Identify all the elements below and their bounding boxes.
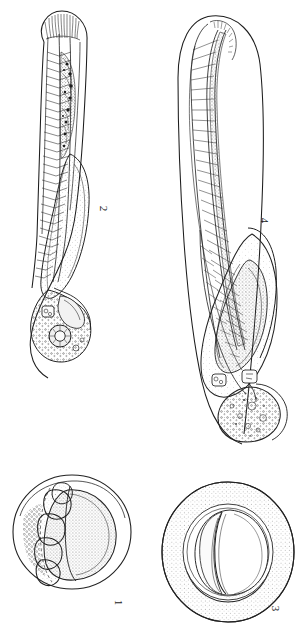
figure-1-drawing — [8, 468, 138, 598]
figure-1-label: 1 — [113, 600, 124, 606]
figure-4-label: 4 — [259, 218, 270, 224]
figure-2-label: 2 — [98, 206, 109, 212]
figure-4-drawing — [160, 2, 300, 462]
figure-2-drawing — [14, 4, 134, 404]
illustration-plate: 2 — [0, 0, 306, 632]
figure-3-label: 3 — [270, 606, 281, 612]
